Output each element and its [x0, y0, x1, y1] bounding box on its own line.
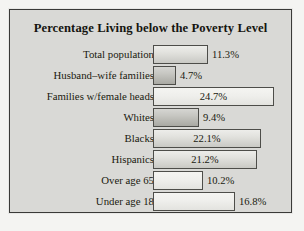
bar-row: Blacks22.1% [10, 128, 293, 149]
bar [153, 192, 235, 211]
bar-value-label: 9.4% [203, 108, 225, 127]
bar-row: Over age 6510.2% [10, 170, 293, 191]
bar-track: 16.8% [153, 192, 291, 211]
bar-track: 11.3% [153, 45, 291, 64]
bar-track: 4.7% [153, 66, 291, 85]
bar-row: Husband–wife families4.7% [10, 65, 293, 86]
bar-value-label: 11.3% [212, 45, 239, 64]
bar-row: Total population11.3% [10, 44, 293, 65]
bar-value-label: 16.8% [239, 192, 266, 211]
bar-track: 24.7% [153, 87, 291, 106]
bar-value-label: 10.2% [207, 171, 234, 190]
bar-value-label: 22.1% [153, 129, 261, 148]
category-label: Over age 65 [19, 175, 154, 186]
category-label: Total population [19, 49, 154, 60]
category-label: Husband–wife families [19, 70, 154, 81]
category-label: Hispanics [19, 154, 154, 165]
bar-row: Whites9.4% [10, 107, 293, 128]
bar [153, 108, 199, 127]
category-label: Blacks [19, 133, 154, 144]
category-label: Whites [19, 112, 154, 123]
chart-frame: Percentage Living below the Poverty Leve… [9, 9, 292, 213]
bar [153, 66, 176, 85]
bar [153, 45, 208, 64]
bar-value-label: 4.7% [180, 66, 202, 85]
bar-value-label: 21.2% [153, 150, 257, 169]
bar-track: 21.2% [153, 150, 291, 169]
plot-area: Total population11.3%Husband–wife famili… [10, 44, 293, 212]
bar-row: Hispanics21.2% [10, 149, 293, 170]
bar-track: 9.4% [153, 108, 291, 127]
bar-track: 22.1% [153, 129, 291, 148]
poverty-level-bar-chart-figure: Percentage Living below the Poverty Leve… [0, 0, 304, 231]
bar-row: Families w/female heads24.7% [10, 86, 293, 107]
bar-track: 10.2% [153, 171, 291, 190]
bar [153, 171, 203, 190]
bar-value-label: 24.7% [153, 87, 274, 106]
category-label: Under age 18 [19, 196, 154, 207]
bar-row: Under age 1816.8% [10, 191, 293, 212]
chart-title: Percentage Living below the Poverty Leve… [10, 21, 291, 36]
category-label: Families w/female heads [19, 91, 154, 102]
